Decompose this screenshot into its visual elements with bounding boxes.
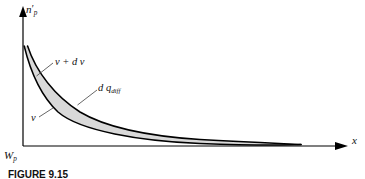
diagram-canvas [0, 0, 365, 179]
upper-curve-label: v + d v [55, 57, 85, 68]
band-label: d qdiff [98, 83, 120, 94]
y-axis-label-base: n [26, 3, 32, 15]
figure-caption: FIGURE 9.15 [8, 170, 68, 179]
band-leader-line [78, 90, 98, 105]
origin-label-base: W [4, 149, 13, 161]
y-axis-label-subscript: p [34, 9, 38, 17]
x-axis-arrowhead [335, 142, 348, 150]
x-axis-label: x [352, 135, 357, 146]
band-label-base: d q [98, 82, 111, 93]
origin-label: Wp [4, 150, 17, 161]
band-label-subscript: diff [111, 87, 120, 94]
y-axis-label: n′p [26, 4, 37, 15]
lower-curve-leader-line [39, 108, 53, 117]
figure-container: n′p x Wp v + d v d qdiff v FIGURE 9.15 [0, 0, 365, 179]
lower-curve-label: v [31, 113, 36, 124]
origin-label-subscript: p [13, 155, 17, 163]
